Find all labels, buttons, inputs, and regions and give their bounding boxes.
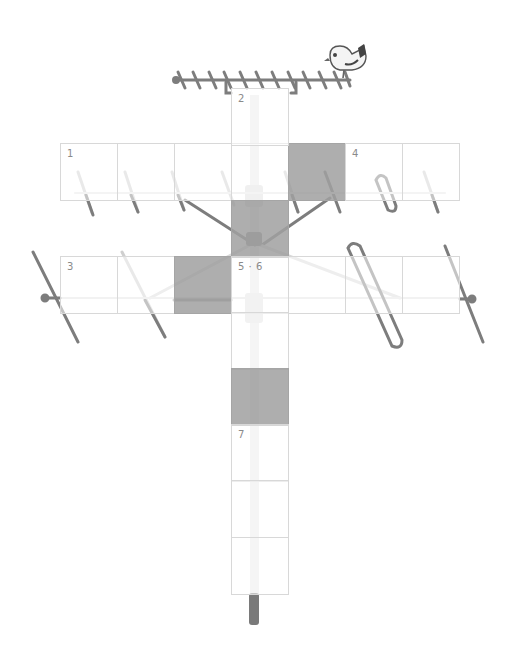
crossword-block-cell: [174, 256, 232, 314]
crossword-cell[interactable]: [117, 256, 175, 314]
crossword-cell[interactable]: [402, 143, 460, 201]
crossword-cell[interactable]: [231, 480, 289, 538]
clue-number: 4: [352, 149, 359, 159]
crossword-cell[interactable]: [174, 143, 232, 201]
crossword-cell[interactable]: 4: [345, 143, 403, 201]
crossword-cell[interactable]: [231, 312, 289, 370]
crossword-cell[interactable]: 2: [231, 88, 289, 146]
crossword-cell[interactable]: 5 · 6: [231, 256, 289, 314]
crossword-cell[interactable]: [402, 256, 460, 314]
crossword-cell[interactable]: 1: [60, 143, 118, 201]
clue-number: 1: [67, 149, 74, 159]
crossword-cell[interactable]: 3: [60, 256, 118, 314]
crossword-block-cell: [231, 368, 289, 426]
clue-number: 2: [238, 94, 245, 104]
clue-number: 7: [238, 430, 245, 440]
crossword-cell[interactable]: [231, 143, 289, 201]
clue-number: 5 · 6: [238, 262, 263, 272]
crossword-cell[interactable]: [288, 256, 346, 314]
crossword-block-cell: [288, 143, 346, 201]
crossword-cell[interactable]: 7: [231, 424, 289, 482]
crossword-grid: 14235 · 67: [0, 0, 508, 654]
crossword-cell[interactable]: [117, 143, 175, 201]
crossword-cell[interactable]: [345, 256, 403, 314]
crossword-cell[interactable]: [231, 537, 289, 595]
crossword-block-cell: [231, 200, 289, 258]
clue-number: 3: [67, 262, 74, 272]
